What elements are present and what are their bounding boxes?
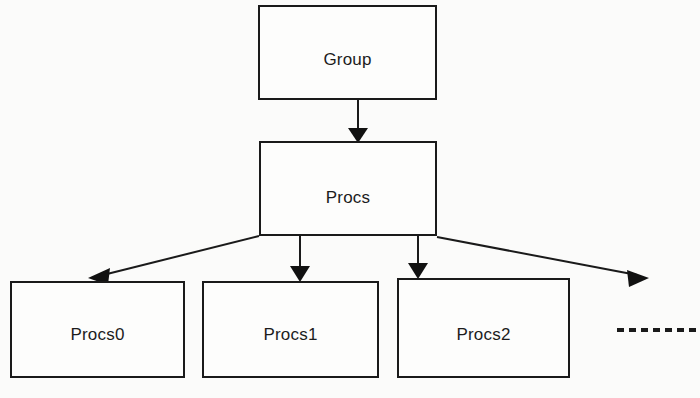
node-procs0[interactable]: Procs0 (10, 281, 185, 378)
node-procs1[interactable]: Procs1 (202, 281, 379, 378)
diagram-canvas: Group Procs Procs0 Procs1 Procs2 (0, 0, 700, 398)
node-procs0-label: Procs0 (12, 325, 183, 345)
node-procs2-label: Procs2 (399, 325, 568, 345)
node-procs2[interactable]: Procs2 (397, 278, 570, 378)
node-procs-label: Procs (261, 188, 435, 208)
node-procs[interactable]: Procs (259, 141, 437, 236)
edge-procs-to-procs2 (408, 236, 428, 279)
edge-procs-to-procs1 (290, 236, 310, 282)
node-procs1-label: Procs1 (204, 325, 377, 345)
edge-procs-to-procs0 (88, 236, 259, 285)
edge-group-to-procs (348, 100, 368, 143)
node-group-label: Group (260, 50, 435, 70)
node-group[interactable]: Group (258, 5, 437, 100)
